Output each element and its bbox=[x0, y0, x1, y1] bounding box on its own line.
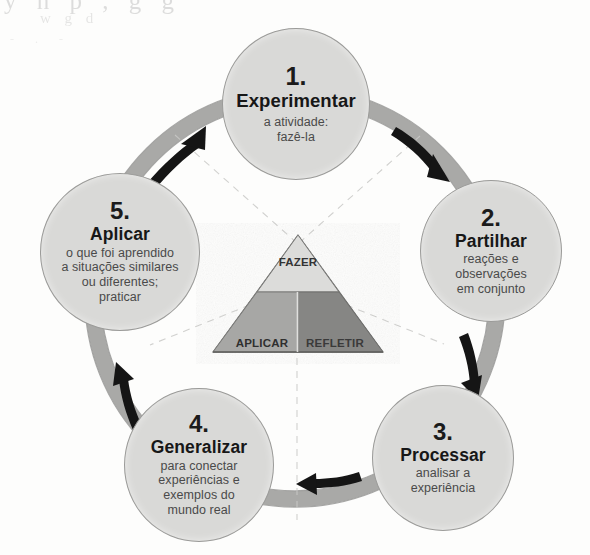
node-4-number: 4. bbox=[189, 412, 209, 436]
node-1-desc-line-2: fazê-la bbox=[264, 130, 329, 145]
node-4-desc-line-3: exemplos do bbox=[158, 488, 239, 503]
node-5-desc-line-1: o que foi aprendido bbox=[61, 246, 178, 261]
node-3-desc-line-1: analisar a bbox=[411, 466, 475, 481]
node-2-desc-line-1: reações e bbox=[455, 252, 526, 267]
node-1-description: a atividade: fazê-la bbox=[264, 115, 329, 145]
cycle-node-3[interactable]: 3. Processar analisar a experiência bbox=[372, 385, 514, 531]
node-5-desc-line-3: ou diferentes; bbox=[61, 275, 178, 290]
node-3-desc-line-2: experiência bbox=[411, 481, 475, 496]
node-3-number: 3. bbox=[433, 420, 453, 444]
node-5-desc-line-2: a situações similares bbox=[61, 260, 178, 275]
node-3-title: Processar bbox=[400, 446, 486, 464]
cycle-diagram: y n p , g g w g d - . - bbox=[0, 0, 590, 555]
node-4-title: Generalizar bbox=[151, 438, 247, 456]
cycle-node-2[interactable]: 2. Partilhar reações e observações em co… bbox=[420, 180, 562, 322]
node-2-desc-line-3: em conjunto bbox=[455, 282, 526, 297]
node-4-description: para conectar experiências e exemplos do… bbox=[158, 459, 239, 518]
node-2-number: 2. bbox=[481, 206, 501, 230]
center-triangle bbox=[213, 235, 383, 352]
cycle-node-1[interactable]: 1. Experimentar a atividade: fazê-la bbox=[222, 28, 370, 180]
node-5-description: o que foi aprendido a situações similare… bbox=[61, 246, 178, 305]
cycle-node-4[interactable]: 4. Generalizar para conectar experiência… bbox=[124, 388, 274, 542]
node-5-number: 5. bbox=[110, 199, 130, 223]
node-2-desc-line-2: observações bbox=[455, 267, 526, 282]
node-4-desc-line-2: experiências e bbox=[158, 473, 239, 488]
node-2-title: Partilhar bbox=[455, 232, 527, 250]
node-1-desc-line-1: a atividade: bbox=[264, 115, 329, 130]
triangle-label-fazer: FAZER bbox=[256, 256, 340, 268]
node-4-desc-line-1: para conectar bbox=[158, 459, 239, 474]
triangle-label-refletir: REFLETIR bbox=[299, 337, 371, 349]
triangle-label-aplicar: APLICAR bbox=[226, 337, 298, 349]
cycle-node-5[interactable]: 5. Aplicar o que foi aprendido a situaçõ… bbox=[40, 173, 200, 331]
node-1-number: 1. bbox=[286, 64, 307, 89]
node-5-title: Aplicar bbox=[90, 225, 150, 243]
node-2-description: reações e observações em conjunto bbox=[455, 252, 526, 296]
node-1-title: Experimentar bbox=[236, 91, 355, 110]
node-3-description: analisar a experiência bbox=[411, 466, 475, 496]
node-4-desc-line-4: mundo real bbox=[158, 503, 239, 518]
node-5-desc-line-4: praticar bbox=[61, 290, 178, 305]
